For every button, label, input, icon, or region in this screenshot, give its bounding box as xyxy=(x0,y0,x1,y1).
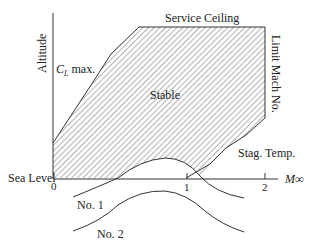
x-axis-label: M∞ xyxy=(285,173,304,185)
origin-label: 0 xyxy=(51,181,57,192)
sea-level-label: Sea Level xyxy=(8,172,56,184)
cl-max-c: C xyxy=(56,62,64,76)
stag-temp-label: Stag. Temp. xyxy=(238,147,295,159)
stable-label: Stable xyxy=(150,89,180,101)
y-axis-label: Altitude xyxy=(36,34,48,73)
curve-no1-label: No. 1 xyxy=(77,199,104,211)
x-tick-label-1: 1 xyxy=(184,182,190,193)
cl-max-label: CL max. xyxy=(56,63,95,78)
limit-mach-label: Limit Mach No. xyxy=(270,35,282,113)
cl-max-suffix: max. xyxy=(68,62,95,76)
stable-region xyxy=(53,27,265,178)
curve-no2-label: No. 2 xyxy=(97,228,124,240)
x-tick-label-2: 2 xyxy=(262,182,268,193)
service-ceiling-label: Service Ceiling xyxy=(165,12,239,24)
